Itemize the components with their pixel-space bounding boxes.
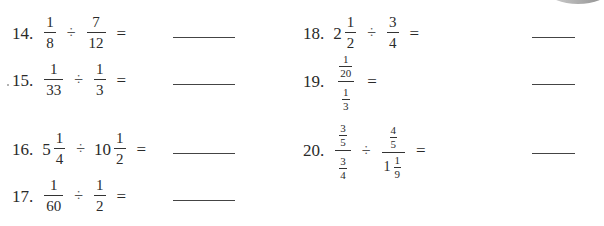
answer-blank-19[interactable] <box>532 84 575 85</box>
answer-blank-18[interactable] <box>532 37 575 38</box>
equals-sign: = <box>117 72 127 89</box>
scan-speck <box>7 84 9 86</box>
problem-18: 18. 2 12 ÷ 34 = <box>303 15 419 51</box>
mixed-number: 119 <box>384 155 404 180</box>
mixed-number: 10 12 <box>94 131 128 167</box>
answer-blank-15[interactable] <box>173 84 235 85</box>
problem-14: 14. 18 ÷ 712 = <box>12 15 126 51</box>
fraction: 45 <box>390 125 398 150</box>
divide-sign: ÷ <box>74 188 83 204</box>
fraction: 35 <box>339 123 347 148</box>
answer-blank-16[interactable] <box>173 153 235 154</box>
answer-blank-20[interactable] <box>532 153 575 154</box>
equals-sign: = <box>117 25 127 42</box>
fraction: 34 <box>387 15 399 51</box>
fraction: 133 <box>44 62 63 98</box>
problem-number: 14. <box>12 25 33 42</box>
mixed-number: 2 12 <box>333 15 358 51</box>
divide-sign: ÷ <box>362 143 371 159</box>
fraction: 14 <box>54 131 66 167</box>
equals-sign: = <box>367 73 377 90</box>
divide-sign: ÷ <box>67 25 76 41</box>
problem-number: 16. <box>12 141 33 158</box>
fraction: 12 <box>114 131 126 167</box>
fraction: 19 <box>394 155 402 180</box>
fraction: 12 <box>345 15 357 51</box>
fraction: 34 <box>339 156 347 181</box>
problem-number: 19. <box>303 73 324 90</box>
complex-fraction: 45 119 <box>382 122 406 180</box>
problem-19: 19. 120 13 = <box>303 51 377 112</box>
fraction: 120 <box>339 54 352 79</box>
mixed-number: 5 14 <box>42 131 67 167</box>
complex-fraction: 120 13 <box>335 51 356 112</box>
equals-sign: = <box>137 141 147 158</box>
divide-sign: ÷ <box>76 141 85 157</box>
answer-blank-17[interactable] <box>173 200 235 201</box>
equals-sign: = <box>117 188 127 205</box>
problem-15: 15. 133 ÷ 13 = <box>12 62 126 98</box>
fraction: 12 <box>94 178 106 214</box>
equals-sign: = <box>410 25 420 42</box>
answer-blank-14[interactable] <box>173 37 235 38</box>
complex-fraction: 35 34 <box>335 120 351 181</box>
problem-17: 17. 160 ÷ 12 = <box>12 178 126 214</box>
equals-sign: = <box>416 142 426 159</box>
fraction: 160 <box>44 178 63 214</box>
problem-20: 20. 35 34 ÷ 45 119 = <box>303 120 426 181</box>
problem-number: 15. <box>12 72 33 89</box>
page-corner-tab <box>548 0 604 4</box>
problem-number: 17. <box>12 188 33 205</box>
problem-16: 16. 5 14 ÷ 10 12 = <box>12 131 146 167</box>
fraction: 18 <box>44 15 56 51</box>
problem-number: 20. <box>303 142 324 159</box>
fraction: 13 <box>342 87 350 112</box>
fraction: 712 <box>87 15 106 51</box>
divide-sign: ÷ <box>74 72 83 88</box>
fraction: 13 <box>94 62 106 98</box>
problem-number: 18. <box>303 25 324 42</box>
divide-sign: ÷ <box>367 25 376 41</box>
